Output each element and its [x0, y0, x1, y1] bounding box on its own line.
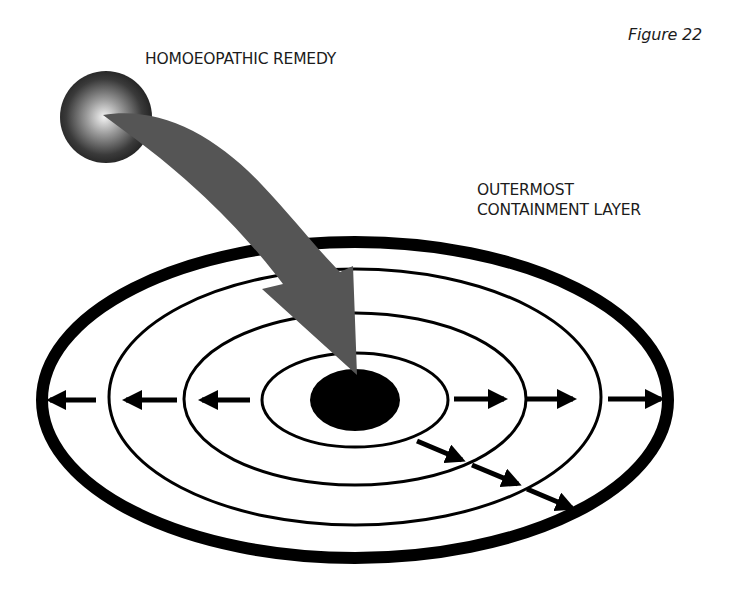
- core: [310, 369, 400, 431]
- arrow-diagonal-icon: [527, 489, 572, 508]
- arrow-diagonal-icon: [472, 465, 518, 484]
- containment-diagram: [0, 0, 739, 594]
- arrow-diagonal-icon: [417, 441, 462, 460]
